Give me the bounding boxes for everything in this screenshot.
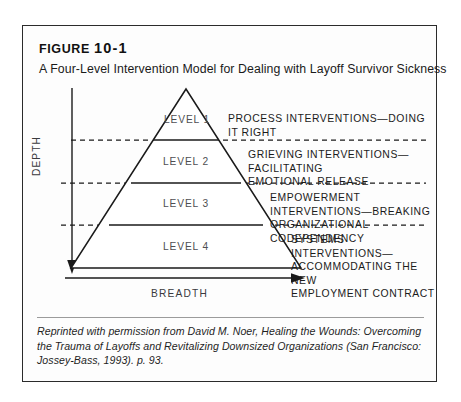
level-tag-4: Level 4	[108, 241, 264, 252]
level-tag-2: Level 2	[130, 156, 242, 167]
level-description-1: Process Interventions—doing it right	[228, 112, 436, 139]
axis-label-breadth: Breadth	[151, 288, 208, 299]
level-description-4: Systems Interventions— Accommodating the…	[291, 233, 436, 301]
level-tag-1: Level 1	[141, 114, 233, 125]
breadth-axis	[65, 273, 305, 283]
level-tag-3: Level 3	[119, 198, 253, 209]
caption-divider	[37, 317, 424, 318]
depth-axis	[67, 88, 77, 274]
figure-caption: Reprinted with permission from David M. …	[37, 324, 425, 368]
axis-label-depth: Depth	[31, 116, 42, 176]
figure-frame: Figure 10-1 A Four-Level Intervention Mo…	[22, 25, 437, 382]
level-description-2: Grieving Interventions—Facilitating emot…	[248, 148, 436, 189]
